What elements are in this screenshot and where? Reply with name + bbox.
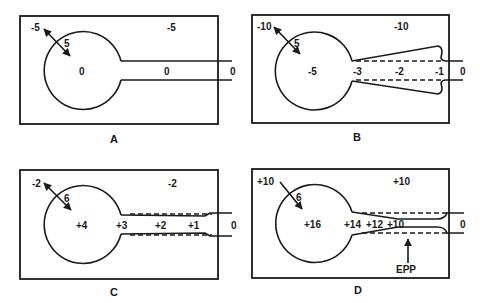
- panel-c-tube-bottom: [121, 233, 232, 236]
- panel-d-caption: D: [354, 284, 362, 296]
- pressure-diagram: -5 -5 5 0 0 0 A -10 -10 5 -5 -3 -2 -1 0 …: [0, 0, 480, 303]
- panel-a: -5 -5 5 0 0 0 A: [20, 16, 236, 145]
- panel-c-tube-value-2: +2: [155, 220, 167, 231]
- panel-a-tube-end: 0: [230, 66, 236, 77]
- panel-c-bubble-value: +4: [76, 220, 88, 231]
- panel-d-tube-value-1: +14: [344, 219, 361, 230]
- panel-a-outer-right: -5: [167, 22, 176, 33]
- panel-c-radius: 6: [64, 193, 70, 204]
- panel-b-tube-end: 0: [460, 66, 466, 77]
- panel-b-frame: [252, 15, 449, 123]
- panel-a-caption: A: [110, 133, 118, 145]
- panel-b-outer-right: -10: [394, 21, 409, 32]
- panel-c-tube-value-1: +3: [116, 220, 128, 231]
- panel-d-tube-end: 0: [460, 219, 466, 230]
- panel-c-outer-right: -2: [168, 178, 177, 189]
- panel-a-bubble-value: 0: [79, 66, 85, 77]
- panel-b-flare-top: [352, 46, 463, 61]
- panel-c-outer-left: -2: [32, 178, 41, 189]
- panel-b-tube-value-2: -2: [395, 66, 404, 77]
- panel-b-outer-left: -10: [257, 21, 272, 32]
- panel-b: -10 -10 5 -5 -3 -2 -1 0 B: [252, 15, 466, 143]
- panel-c-caption: C: [110, 286, 118, 298]
- panel-d-outer-left: +10: [257, 176, 274, 187]
- panel-b-flare-bottom: [352, 80, 463, 94]
- panel-a-tube-value: 0: [164, 66, 170, 77]
- panel-d-epp-label: EPP: [396, 264, 416, 275]
- panel-d-tube-value-3: +10: [387, 219, 404, 230]
- panel-b-tube-value-3: -1: [435, 66, 444, 77]
- panel-b-radius: 5: [294, 38, 300, 49]
- panel-c-tube-value-3: +1: [188, 220, 200, 231]
- panel-d-tube-top: [352, 212, 464, 219]
- panel-d-outer-right: +10: [393, 176, 410, 187]
- panel-a-outer-left: -5: [31, 22, 40, 33]
- panel-d-radius: 6: [296, 192, 302, 203]
- panel-c: -2 -2 6 +4 +3 +2 +1 0 C: [20, 170, 237, 298]
- panel-c-tube-end: 0: [231, 220, 237, 231]
- panel-b-bubble-value: -5: [308, 66, 317, 77]
- panel-c-tube-top: [121, 213, 232, 216]
- panel-b-tube-value-1: -3: [353, 66, 362, 77]
- panel-a-radius: 5: [64, 38, 70, 49]
- panel-b-caption: B: [353, 131, 361, 143]
- panel-a-frame: [20, 16, 218, 124]
- panel-d-bubble-value: +16: [304, 219, 321, 230]
- panel-d: +10 +10 6 +16 +14 +12 +10 0 EPP D: [252, 169, 466, 296]
- panel-d-tube-value-2: +12: [366, 219, 383, 230]
